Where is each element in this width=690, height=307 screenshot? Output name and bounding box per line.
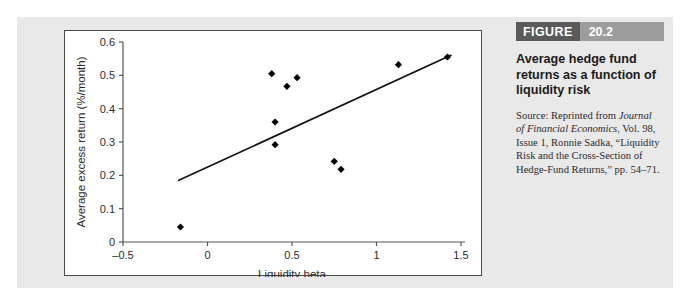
y-axis-tick-label: 0.2 bbox=[100, 169, 115, 181]
data-point-marker bbox=[283, 83, 290, 90]
data-point-marker bbox=[331, 158, 338, 165]
trend-line bbox=[179, 55, 451, 180]
data-point-marker bbox=[177, 223, 184, 230]
data-point-marker bbox=[272, 141, 279, 148]
figure-number: 20.2 bbox=[580, 22, 664, 41]
y-axis-tick-label: 0.4 bbox=[100, 103, 115, 115]
x-axis-title: Liquidity beta bbox=[258, 268, 326, 277]
x-axis-tick-label: 1.5 bbox=[453, 249, 468, 261]
x-axis-tick-label: 0.5 bbox=[284, 249, 299, 261]
y-axis-tick-label: 0.5 bbox=[100, 69, 115, 81]
data-point-marker bbox=[444, 53, 451, 60]
figure-label: FIGURE bbox=[516, 22, 580, 41]
figure-page: 00.10.20.30.40.50.6–0.500.511.5Liquidity… bbox=[0, 0, 690, 307]
x-axis-tick-label: 0 bbox=[204, 249, 210, 261]
figure-source: Source: Reprinted from Journal of Financ… bbox=[516, 109, 662, 177]
y-axis-tick-label: 0.6 bbox=[100, 36, 115, 48]
chart-card: 00.10.20.30.40.50.6–0.500.511.5Liquidity… bbox=[64, 30, 482, 276]
scatter-plot: 00.10.20.30.40.50.6–0.500.511.5Liquidity… bbox=[65, 31, 483, 277]
figure-caption-column: FIGURE 20.2 Average hedge fund returns a… bbox=[516, 22, 666, 176]
data-point-marker bbox=[272, 118, 279, 125]
data-point-marker bbox=[395, 61, 402, 68]
y-axis-title: Average excess return (%/month) bbox=[75, 56, 87, 227]
x-axis-tick-label: 1 bbox=[373, 249, 379, 261]
figure-number-bar: FIGURE 20.2 bbox=[516, 22, 664, 41]
y-axis-tick-label: 0.1 bbox=[100, 203, 115, 215]
data-point-marker bbox=[293, 74, 300, 81]
source-prefix: Source: Reprinted from bbox=[516, 110, 619, 121]
y-axis-tick-label: 0 bbox=[109, 236, 115, 248]
data-point-marker bbox=[337, 166, 344, 173]
figure-title: Average hedge fund returns as a function… bbox=[516, 52, 658, 99]
x-axis-tick-label: –0.5 bbox=[112, 249, 133, 261]
y-axis-tick-label: 0.3 bbox=[100, 136, 115, 148]
data-point-marker bbox=[268, 70, 275, 77]
